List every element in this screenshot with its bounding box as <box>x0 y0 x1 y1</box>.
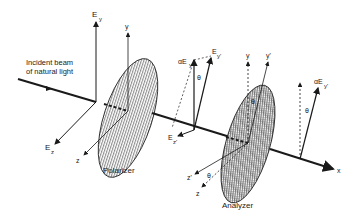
analyzer-theta-label: θ <box>251 98 255 105</box>
Ey-sub: y <box>99 16 102 22</box>
polarization-diagram: Incident beam of natural light E y E z y… <box>0 0 361 220</box>
output-theta-label: θ <box>305 107 309 114</box>
Ezprime-sub: z' <box>173 139 177 145</box>
Ez-axis: E z <box>45 102 96 155</box>
analyzer-z-label: z <box>196 190 200 197</box>
polarizer-label: Polarizer <box>103 166 135 175</box>
x-axis-label: x <box>337 167 341 174</box>
Ez-label: E <box>45 143 50 152</box>
analyzer-yprime-label: y' <box>266 52 271 60</box>
analyzer-theta-bottom-label: θ <box>207 172 211 179</box>
Ez-sub: z <box>51 149 54 155</box>
analyzer-y-label: y <box>246 52 250 60</box>
Ey-axis: E y <box>92 10 102 102</box>
intermediate-vectors: αE y E y' θ E z' <box>168 48 221 145</box>
z-polarizer-label: z <box>76 157 80 164</box>
aEyprime-label: αE <box>314 78 323 85</box>
Eyprime-sub: y' <box>217 53 221 59</box>
aEy-label: αE <box>178 58 187 65</box>
y-polarizer-label: y <box>125 23 129 31</box>
Ey-label: E <box>92 10 97 19</box>
beam-label-line1: Incident beam <box>26 58 73 67</box>
analyzer-zprime-label: z' <box>187 174 192 181</box>
theta-label: θ <box>197 74 201 81</box>
output-vectors: αE y' θ <box>300 78 328 159</box>
analyzer-label: Analyzer <box>222 201 253 210</box>
beam-label-line2: of natural light <box>26 67 74 76</box>
aEyprime-sub: y' <box>324 83 328 89</box>
aEy-sub: y <box>189 62 192 68</box>
incident-beam <box>18 79 96 102</box>
